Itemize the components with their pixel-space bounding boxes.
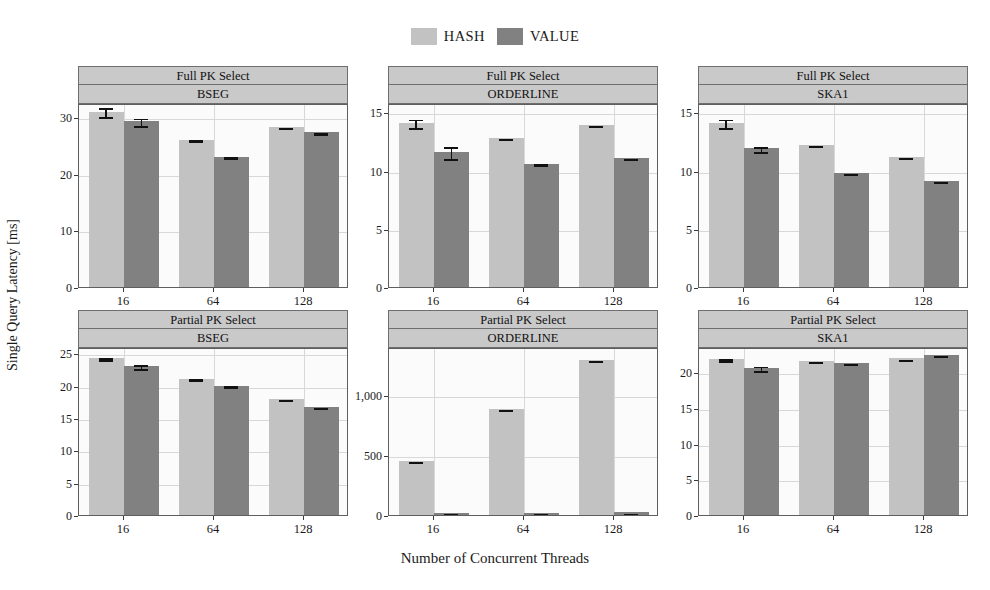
error-bar-cap-top xyxy=(754,147,768,149)
x-gridline xyxy=(614,349,615,515)
error-bar-cap-top xyxy=(99,108,113,110)
bar-value-128 xyxy=(924,355,959,515)
x-tick-mark xyxy=(433,516,434,520)
error-bar-hash-128 xyxy=(899,360,913,362)
panel-strip-row-label: Partial PK Select xyxy=(388,310,658,329)
plot-canvas xyxy=(698,348,968,516)
legend-item-value: VALUE xyxy=(497,28,579,45)
legend-item-hash: HASH xyxy=(411,28,485,45)
bar-value-64 xyxy=(214,157,249,287)
error-bar-cap-top xyxy=(719,120,733,122)
x-tick-mark xyxy=(743,288,744,292)
bar-hash-16 xyxy=(399,123,434,287)
error-bar-cap-bottom xyxy=(314,134,328,136)
error-bar-cap-top xyxy=(409,120,423,122)
error-bar-cap-bottom xyxy=(809,363,823,365)
bar-hash-64 xyxy=(179,140,214,287)
panel-strip-col-label: BSEG xyxy=(78,85,348,104)
plot-canvas xyxy=(388,104,658,288)
y-tick-mark xyxy=(384,113,388,114)
x-tick-mark xyxy=(213,288,214,292)
bar-hash-16 xyxy=(89,358,124,515)
error-bar-hash-128 xyxy=(899,158,913,160)
x-tick-label-64: 64 xyxy=(207,294,220,309)
error-bar-cap-top xyxy=(444,147,458,149)
y-gridline xyxy=(389,114,657,115)
error-bar-value-128 xyxy=(314,133,328,135)
x-tick-mark xyxy=(743,516,744,520)
panel-strip-col-label: ORDERLINE xyxy=(388,329,658,348)
y-tick-mark xyxy=(74,451,78,452)
y-tick-mark xyxy=(694,113,698,114)
error-bar-cap-bottom xyxy=(899,158,913,160)
error-bar-cap-top xyxy=(134,365,148,367)
bar-value-16 xyxy=(434,152,469,287)
x-tick-label-64: 64 xyxy=(517,522,530,537)
error-bar-value-64 xyxy=(534,514,548,516)
bar-value-64 xyxy=(524,164,559,287)
x-tick-mark xyxy=(303,288,304,292)
y-tick-mark xyxy=(694,172,698,173)
bar-hash-128 xyxy=(579,360,614,515)
error-bar-cap-bottom xyxy=(719,128,733,130)
x-tick-label-64: 64 xyxy=(827,522,840,537)
error-bar-cap-bottom xyxy=(809,146,823,148)
chart-legend: HASH VALUE xyxy=(0,28,990,45)
x-tick-label-16: 16 xyxy=(117,294,130,309)
legend-swatch-value xyxy=(497,28,523,45)
error-bar-cap-bottom xyxy=(189,141,203,143)
x-tick-mark xyxy=(433,288,434,292)
error-bar-hash-16 xyxy=(99,108,113,118)
error-bar-cap-bottom xyxy=(409,462,423,464)
error-bar-cap-bottom xyxy=(224,159,238,161)
x-tick-mark xyxy=(833,516,834,520)
error-bar-hash-16 xyxy=(719,120,733,130)
x-tick-label-16: 16 xyxy=(427,294,440,309)
error-bar-value-128 xyxy=(624,159,638,161)
x-tick-label-128: 128 xyxy=(914,522,933,537)
error-bar-cap-bottom xyxy=(444,159,458,161)
bar-value-128 xyxy=(304,407,339,515)
x-tick-label-16: 16 xyxy=(737,522,750,537)
error-bar-cap-bottom xyxy=(719,361,733,363)
bar-value-128 xyxy=(614,158,649,287)
error-bar-value-128 xyxy=(624,514,638,516)
y-tick-mark xyxy=(694,288,698,289)
error-bar-hash-128 xyxy=(279,128,293,130)
error-bar-value-64 xyxy=(224,386,238,389)
bar-hash-16 xyxy=(709,359,744,515)
error-bar-cap-bottom xyxy=(934,182,948,184)
error-bar-cap-bottom xyxy=(189,380,203,382)
y-tick-mark xyxy=(74,419,78,420)
error-bar-cap-bottom xyxy=(624,514,638,516)
y-tick-mark xyxy=(384,288,388,289)
y-tick-mark xyxy=(74,175,78,176)
x-tick-mark xyxy=(613,516,614,520)
x-gridline xyxy=(524,349,525,515)
y-tick-mark xyxy=(384,456,388,457)
bar-hash-16 xyxy=(89,112,124,288)
legend-label-value: VALUE xyxy=(530,28,579,45)
plot-area-ska1-1: 051015201664128 xyxy=(698,348,968,516)
error-bar-hash-128 xyxy=(589,126,603,128)
panel-partial-pk-select-bseg: Partial PK SelectBSEG xyxy=(78,310,348,348)
bar-hash-64 xyxy=(799,361,834,515)
error-bar-value-64 xyxy=(224,157,238,160)
panel-strip-row-label: Full PK Select xyxy=(698,66,968,85)
error-bar-value-64 xyxy=(844,364,858,366)
error-bar-hash-64 xyxy=(499,410,513,412)
error-bar-cap-bottom xyxy=(499,140,513,142)
bar-hash-128 xyxy=(269,127,304,287)
y-tick-mark xyxy=(384,172,388,173)
error-bar-cap-bottom xyxy=(99,360,113,362)
y-tick-mark xyxy=(694,516,698,517)
plot-canvas xyxy=(388,348,658,516)
y-tick-mark xyxy=(694,409,698,410)
y-tick-mark xyxy=(74,516,78,517)
error-bar-value-16 xyxy=(754,147,768,154)
error-bar-hash-16 xyxy=(719,359,733,363)
y-tick-mark xyxy=(384,396,388,397)
x-axis-title: Number of Concurrent Threads xyxy=(0,550,990,567)
x-tick-mark xyxy=(123,516,124,520)
error-bar-cap-bottom xyxy=(99,117,113,119)
